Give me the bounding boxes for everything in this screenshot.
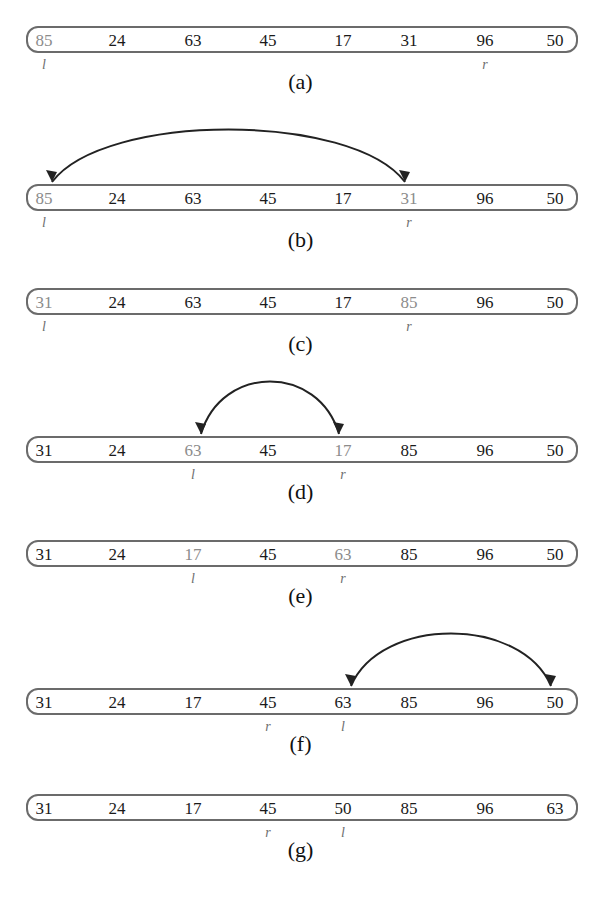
arrowhead-icon [46,170,57,182]
swap-arrow [201,382,339,435]
arrowhead-icon [545,674,556,686]
swap-arrow [351,634,551,687]
arrowhead-icon [195,422,206,434]
swap-arrow [52,130,405,183]
swap-arrows-layer [0,0,601,901]
arrowhead-icon [333,422,344,434]
